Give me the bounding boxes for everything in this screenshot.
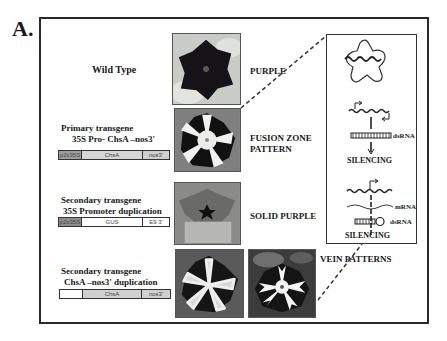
chsa-segment: ChsA	[82, 151, 143, 159]
terminator-segment: E9 3'	[143, 218, 169, 226]
terminator-segment: nos3'	[142, 290, 170, 298]
promoter-duplication-label: 35S Promoter duplication	[63, 206, 162, 217]
vein-pattern-photo-2	[248, 249, 316, 318]
dsrna-label-upper: dsRNA	[393, 132, 415, 140]
secondary-transgene-label-2: Secondary transgene	[61, 266, 141, 277]
secondary-transgene-label-1: Secondary transgene	[61, 195, 141, 206]
fusion-zone-label-line1: FUSION ZONE	[250, 133, 312, 144]
chsa-duplication-label: ChsA –nos3' duplication	[64, 277, 158, 288]
primary-transgene-construct-label: 35S Pro- ChsA –nos3'	[72, 134, 155, 145]
silencing-label-lower: SILENCING	[345, 231, 390, 240]
primary-transgene-label: Primary transgene	[61, 123, 133, 134]
terminator-segment: nos3'	[143, 151, 169, 159]
fusion-zone-label-line2: PATTERN	[250, 144, 292, 155]
construct-primary: p2x35S ChsA nos3'	[58, 150, 170, 160]
wild-type-label: Wild Type	[92, 64, 136, 75]
solid-purple-label: SOLID PURPLE	[250, 211, 316, 222]
wild-type-photo	[172, 33, 241, 105]
silencing-label-upper: SILENCING	[347, 156, 392, 165]
promoter-segment: p2x35S	[59, 151, 82, 159]
solid-purple-photo	[174, 182, 241, 245]
chsa-segment: ChsA	[83, 290, 142, 298]
vein-pattern-photo-1	[175, 249, 244, 318]
gus-segment: GUS	[82, 218, 143, 226]
vein-patterns-label: VEIN PATTERNS	[320, 254, 391, 265]
dsrna-label-lower: dsRNA	[390, 218, 412, 226]
construct-secondary-promoter: p2x35S GUS E9 3'	[58, 217, 170, 227]
promoter-segment: p2x35S	[59, 218, 82, 226]
purple-label: PURPLE	[250, 66, 286, 77]
fusion-zone-photo	[174, 108, 241, 172]
mrna-label: mRNA	[395, 203, 416, 211]
mechanism-inset: dsRNA SILENCING mRNA dsRNA SILENCING	[326, 34, 417, 244]
construct-secondary-chsa: ChsA nos3'	[59, 289, 171, 299]
empty-segment	[60, 290, 83, 298]
panel-label: A.	[12, 16, 33, 42]
